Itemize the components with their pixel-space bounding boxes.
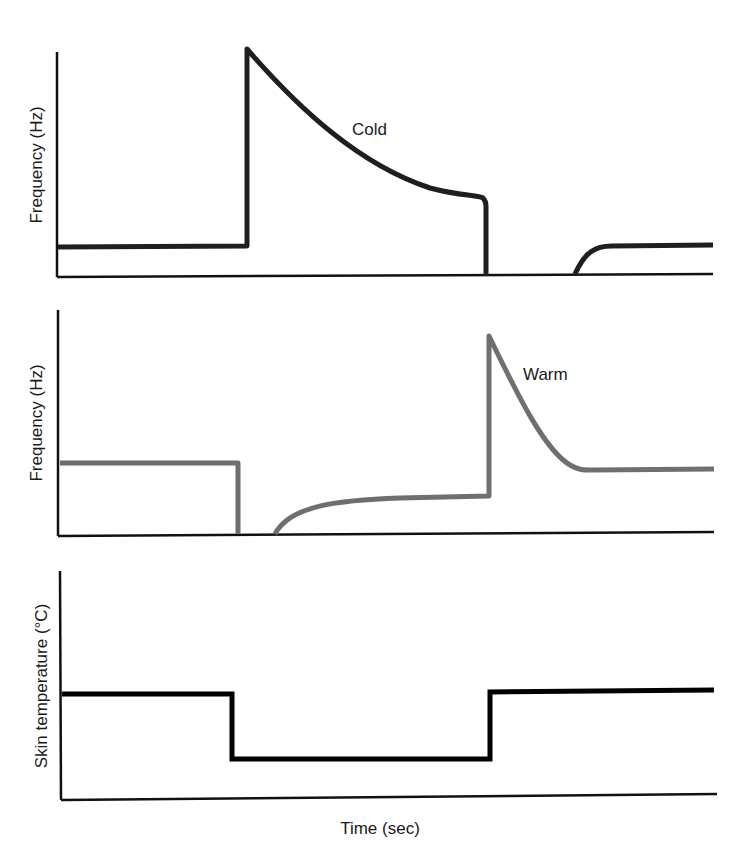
x-axis-label: Time (sec) <box>340 819 420 838</box>
figure: Cold Frequency (Hz) Warm Frequency (Hz) … <box>0 0 745 859</box>
cold-label: Cold <box>352 120 387 139</box>
middle-y-axis-label: Frequency (Hz) <box>27 364 46 481</box>
x-axis <box>61 794 717 800</box>
x-axis <box>57 274 713 277</box>
warm-panel: Warm Frequency (Hz) <box>27 310 714 536</box>
cold-panel: Cold Frequency (Hz) <box>27 49 713 277</box>
warm-label: Warm <box>523 365 568 384</box>
warm-series-line <box>60 336 714 534</box>
cold-series-line <box>58 49 713 276</box>
x-axis <box>58 532 714 536</box>
y-axis <box>60 571 61 800</box>
temperature-panel: Skin temperature (°C) Time (sec) <box>32 571 717 838</box>
top-y-axis-label: Frequency (Hz) <box>27 106 46 223</box>
temperature-series-line <box>62 690 714 759</box>
bottom-y-axis-label: Skin temperature (°C) <box>32 604 51 769</box>
